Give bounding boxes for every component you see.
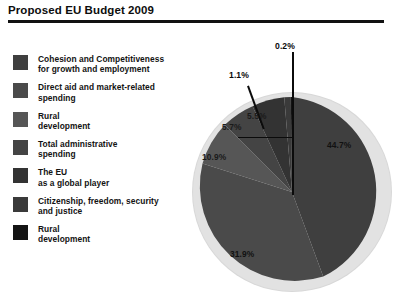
- legend-item[interactable]: Rural development: [13, 111, 195, 132]
- legend-item[interactable]: Cohesion and Competitiveness for growth …: [13, 54, 195, 75]
- legend-label-line: spending: [38, 93, 155, 103]
- pie-label-5-5: 5.5%: [247, 111, 267, 121]
- header-rule: [8, 20, 384, 23]
- legend-label-line: The EU: [38, 167, 109, 177]
- legend-swatch-rural-development: [13, 112, 28, 127]
- legend-swatch-citizenship: [13, 197, 28, 212]
- pie-label-10-9: 10.9%: [202, 152, 226, 162]
- legend-label-line: spending: [38, 149, 118, 159]
- pie-chart-svg: [186, 60, 396, 303]
- leader-line-55: [238, 137, 294, 138]
- legend-label-line: development: [38, 234, 90, 244]
- legend-label-line: Total administrative: [38, 139, 118, 149]
- legend-label-line: Cohesion and Competitiveness: [38, 54, 164, 64]
- pie-label-44-7: 44.7%: [327, 140, 351, 150]
- legend-label-line: as a global player: [38, 178, 109, 188]
- legend-label-line: Citizenship, freedom, security: [38, 196, 159, 206]
- chart-legend: Cohesion and Competitiveness for growth …: [13, 54, 195, 252]
- legend-label-line: Direct aid and market-related: [38, 82, 155, 92]
- pie-chart: [186, 60, 396, 303]
- legend-swatch-rural-development-2: [13, 225, 28, 240]
- legend-label-citizenship: Citizenship, freedom, security and justi…: [38, 196, 159, 217]
- leader-line-02: [292, 52, 294, 195]
- pie-label-0-2: 0.2%: [275, 41, 295, 51]
- legend-label-line: and justice: [38, 206, 159, 216]
- legend-label-line: Rural: [38, 111, 90, 121]
- page-title: Proposed EU Budget 2009: [8, 3, 390, 17]
- legend-label-cohesion: Cohesion and Competitiveness for growth …: [38, 54, 164, 75]
- legend-label-line: development: [38, 121, 90, 131]
- legend-label-global-player: The EU as a global player: [38, 167, 109, 188]
- legend-swatch-global-player: [13, 168, 28, 183]
- legend-label-rural-development-2: Rural development: [38, 224, 90, 245]
- header: Proposed EU Budget 2009: [8, 3, 390, 23]
- pie-label-1-1: 1.1%: [229, 70, 249, 80]
- legend-item[interactable]: Citizenship, freedom, security and justi…: [13, 196, 195, 217]
- legend-label-direct-aid: Direct aid and market-related spending: [38, 82, 155, 103]
- legend-label-line: Rural: [38, 224, 90, 234]
- chart-page: Proposed EU Budget 2009 Cohesion and Com…: [0, 0, 396, 303]
- legend-item[interactable]: Direct aid and market-related spending: [13, 82, 195, 103]
- legend-item[interactable]: The EU as a global player: [13, 167, 195, 188]
- pie-label-31-9: 31.9%: [230, 249, 254, 259]
- legend-label-line: for growth and employment: [38, 64, 164, 74]
- legend-swatch-direct-aid: [13, 83, 28, 98]
- legend-swatch-cohesion: [13, 55, 28, 70]
- pie-label-5-7: 5.7%: [222, 122, 242, 132]
- legend-label-administrative: Total administrative spending: [38, 139, 118, 160]
- legend-item[interactable]: Rural development: [13, 224, 195, 245]
- legend-label-rural-development: Rural development: [38, 111, 90, 132]
- legend-item[interactable]: Total administrative spending: [13, 139, 195, 160]
- legend-swatch-administrative: [13, 140, 28, 155]
